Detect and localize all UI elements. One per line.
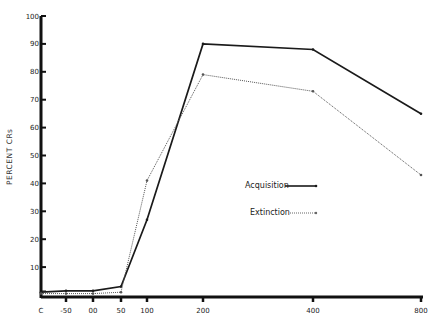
data-point [120, 291, 123, 294]
y-tick-label: 70 [30, 96, 39, 104]
y-axis-label: PERCENT CRs [5, 128, 14, 185]
y-tick-label: 100 [26, 13, 39, 21]
data-point [202, 43, 205, 46]
y-tick-label: 80 [30, 68, 39, 76]
x-axis: C-500050100200400800 [39, 297, 428, 315]
x-tick-label: C [39, 307, 44, 315]
x-tick-label: -50 [60, 307, 71, 315]
x-tick-label: 00 [89, 307, 98, 315]
legend-acquisition-marker [315, 185, 318, 188]
legend: Acquisition Extinction [245, 181, 317, 217]
series-acquisition-line [41, 44, 421, 292]
y-axis: 102030405060708090100 [26, 13, 46, 299]
y-tick-label: 10 [30, 264, 39, 272]
x-tick-label: 50 [117, 307, 126, 315]
legend-extinction-marker [315, 212, 317, 214]
y-tick-label: 40 [30, 180, 39, 188]
data-point [420, 174, 423, 177]
x-tick-label: 400 [306, 307, 319, 315]
data-point [40, 292, 43, 295]
y-tick-label: 30 [30, 208, 39, 216]
x-tick-label: 800 [414, 307, 427, 315]
data-point [312, 90, 315, 93]
y-tick-label: 50 [30, 152, 39, 160]
data-point [65, 290, 68, 293]
y-tick-label: 60 [30, 124, 39, 132]
data-point [202, 73, 205, 76]
data-point [420, 112, 423, 115]
data-point [92, 292, 95, 295]
series-lines [40, 43, 423, 295]
data-point [312, 48, 315, 51]
y-tick-label: 20 [30, 236, 39, 244]
data-point [146, 179, 149, 182]
y-tick-label: 90 [30, 40, 39, 48]
data-point [92, 290, 95, 293]
legend-acquisition-label: Acquisition [245, 181, 289, 190]
line-chart: 102030405060708090100 C-5000501002004008… [0, 0, 437, 336]
legend-extinction-label: Extinction [250, 208, 290, 217]
series-extinction-line [41, 75, 421, 294]
data-point [146, 218, 149, 221]
data-point [65, 292, 68, 295]
x-tick-label: 100 [140, 307, 153, 315]
x-tick-label: 200 [196, 307, 209, 315]
